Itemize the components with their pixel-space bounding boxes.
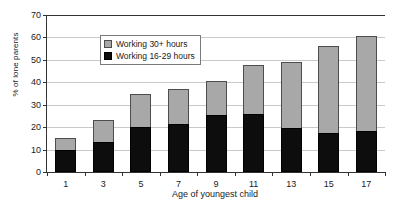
stacked-bar bbox=[93, 120, 114, 172]
stacked-bar bbox=[55, 138, 76, 172]
bar-group: 15 bbox=[310, 15, 348, 172]
black-swatch-icon bbox=[104, 52, 112, 60]
bar-segment-working-16-29 bbox=[281, 128, 302, 172]
x-axis-tick bbox=[310, 172, 311, 176]
bar-segment-working-30-plus bbox=[168, 89, 189, 123]
bar-segment-working-30-plus bbox=[281, 62, 302, 128]
x-axis-tick bbox=[385, 172, 386, 176]
x-axis-title: Age of youngest child bbox=[46, 189, 384, 199]
bar-segment-working-30-plus bbox=[130, 94, 151, 127]
bar-segment-working-16-29 bbox=[130, 127, 151, 172]
legend-item-working-16-29: Working 16-29 hours bbox=[104, 50, 195, 62]
bar-segment-working-16-29 bbox=[206, 115, 227, 172]
legend-label: Working 16-29 hours bbox=[116, 51, 195, 61]
bar-segment-working-16-29 bbox=[55, 150, 76, 172]
x-axis-tick bbox=[122, 172, 123, 176]
x-axis-tick bbox=[47, 172, 48, 176]
x-axis-tick bbox=[160, 172, 161, 176]
bar-segment-working-16-29 bbox=[243, 114, 264, 172]
gray-swatch-icon bbox=[104, 40, 112, 48]
x-axis-tick bbox=[235, 172, 236, 176]
x-axis-label: 13 bbox=[286, 179, 296, 189]
stacked-bar bbox=[168, 89, 189, 172]
bar-segment-working-30-plus bbox=[206, 81, 227, 115]
x-axis-tick bbox=[197, 172, 198, 176]
plot-area: 010203040506070 1357911131517 Working 30… bbox=[46, 15, 385, 173]
legend-label: Working 30+ hours bbox=[116, 39, 187, 49]
stacked-bar bbox=[243, 65, 264, 172]
bar-group: 13 bbox=[272, 15, 310, 172]
stacked-bar bbox=[356, 36, 377, 172]
stacked-bar bbox=[206, 81, 227, 172]
bar-segment-working-16-29 bbox=[168, 124, 189, 172]
bars-layer: 1357911131517 bbox=[47, 15, 385, 172]
stacked-bar bbox=[281, 62, 302, 172]
bar-group: 11 bbox=[235, 15, 273, 172]
y-axis-label: 10 bbox=[31, 145, 41, 155]
x-axis-label: 5 bbox=[138, 179, 143, 189]
bar-segment-working-30-plus bbox=[55, 138, 76, 150]
y-axis-label: 40 bbox=[31, 77, 41, 87]
x-axis-tick bbox=[348, 172, 349, 176]
bar-segment-working-16-29 bbox=[318, 133, 339, 172]
x-axis-label: 9 bbox=[214, 179, 219, 189]
bar-group: 9 bbox=[197, 15, 235, 172]
x-axis-label: 15 bbox=[324, 179, 334, 189]
chart-legend: Working 30+ hours Working 16-29 hours bbox=[100, 35, 201, 65]
x-axis-label: 3 bbox=[101, 179, 106, 189]
bar-segment-working-30-plus bbox=[318, 46, 339, 133]
bar-segment-working-30-plus bbox=[93, 120, 114, 142]
bar-segment-working-16-29 bbox=[93, 142, 114, 172]
stacked-bar-chart: % of lone parents 010203040506070 135791… bbox=[0, 0, 397, 206]
x-axis-label: 17 bbox=[361, 179, 371, 189]
y-axis-label: 30 bbox=[31, 100, 41, 110]
stacked-bar bbox=[130, 94, 151, 172]
bar-segment-working-30-plus bbox=[243, 65, 264, 113]
y-axis-label: 50 bbox=[31, 55, 41, 65]
x-axis-label: 7 bbox=[176, 179, 181, 189]
stacked-bar bbox=[318, 46, 339, 172]
y-axis-label: 60 bbox=[31, 32, 41, 42]
bar-segment-working-30-plus bbox=[356, 36, 377, 131]
x-axis-label: 1 bbox=[63, 179, 68, 189]
x-axis-tick bbox=[85, 172, 86, 176]
y-axis-title: % of lone parents bbox=[11, 5, 20, 125]
y-axis-label: 70 bbox=[31, 10, 41, 20]
bar-group: 17 bbox=[348, 15, 386, 172]
bar-segment-working-16-29 bbox=[356, 131, 377, 172]
y-axis-label: 0 bbox=[36, 167, 41, 177]
bar-group: 1 bbox=[47, 15, 85, 172]
y-axis-label: 20 bbox=[31, 122, 41, 132]
x-axis-label: 11 bbox=[249, 179, 258, 189]
x-axis-tick bbox=[272, 172, 273, 176]
legend-item-working-30-plus: Working 30+ hours bbox=[104, 38, 195, 50]
